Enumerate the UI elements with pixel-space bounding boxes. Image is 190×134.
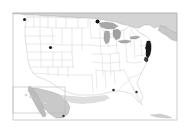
lake-michigan bbox=[104, 31, 110, 44]
map-canvas[interactable] bbox=[0, 0, 190, 134]
us-map-figure bbox=[0, 0, 190, 134]
map-marker[interactable] bbox=[145, 47, 148, 50]
map-marker[interactable] bbox=[49, 46, 52, 49]
map-marker[interactable] bbox=[62, 115, 64, 117]
map-marker[interactable] bbox=[96, 20, 100, 24]
map-marker[interactable] bbox=[23, 18, 26, 21]
map-marker[interactable] bbox=[135, 91, 137, 93]
map-marker[interactable] bbox=[112, 89, 115, 92]
